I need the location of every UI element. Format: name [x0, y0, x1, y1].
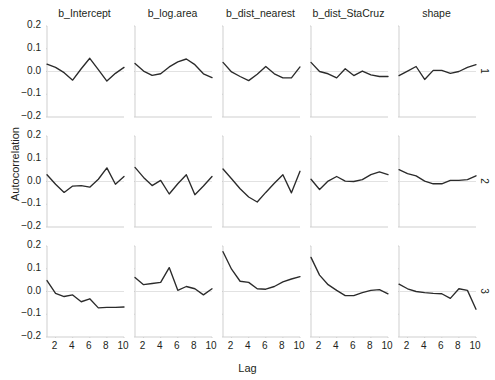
- acf-line: [399, 284, 476, 309]
- acf-line: [47, 168, 124, 193]
- x-tick-label: 8: [363, 340, 377, 351]
- x-tick-label: 10: [292, 340, 306, 351]
- x-tick-label: 6: [82, 340, 96, 351]
- x-tick-label: 10: [380, 340, 394, 351]
- column-title-b-dist-stacruz: b_dist_StaCruz: [310, 7, 387, 19]
- panel-b-dist-nearest-chain-1: [222, 25, 299, 116]
- panel-b-dist-stacruz-chain-3: [310, 245, 387, 336]
- y-tick-label: −0.1: [15, 87, 41, 98]
- y-tick-label: −0.2: [15, 110, 41, 121]
- acf-line: [399, 65, 476, 80]
- acf-line: [223, 252, 300, 290]
- x-tick-label: 6: [258, 340, 272, 351]
- y-tick-label: −0.1: [15, 307, 41, 318]
- panel-shape-chain-3: [398, 245, 475, 336]
- panel-b-dist-nearest-chain-3: [222, 245, 299, 336]
- acf-line: [47, 58, 124, 81]
- x-axis-label: Lag: [0, 362, 495, 374]
- panel-shape-chain-2: [398, 135, 475, 226]
- y-tick-label: 0.0: [15, 285, 41, 296]
- x-tick-label: 2: [400, 340, 414, 351]
- y-tick-label: −0.2: [15, 330, 41, 341]
- row-title-chain-1: 1: [477, 64, 491, 78]
- acf-line: [223, 169, 300, 202]
- panel-b-dist-stacruz-chain-1: [310, 25, 387, 116]
- row-title-chain-3: 3: [477, 284, 491, 298]
- x-tick-label: 10: [204, 340, 218, 351]
- x-tick-label: 10: [468, 340, 482, 351]
- y-tick-label: −0.2: [15, 220, 41, 231]
- y-tick-label: −0.1: [15, 197, 41, 208]
- x-tick-label: 8: [187, 340, 201, 351]
- acf-line: [311, 172, 388, 190]
- panel-b-intercept-chain-3: [46, 245, 123, 336]
- y-tick-label: 0.1: [15, 152, 41, 163]
- x-tick-label: 4: [241, 340, 255, 351]
- panel-b-dist-stacruz-chain-2: [310, 135, 387, 226]
- x-tick-label: 2: [312, 340, 326, 351]
- x-tick-label: 6: [170, 340, 184, 351]
- x-tick-label: 4: [417, 340, 431, 351]
- x-tick-label: 4: [153, 340, 167, 351]
- x-tick-label: 4: [329, 340, 343, 351]
- panel-b-intercept-chain-2: [46, 135, 123, 226]
- row-title-chain-2: 2: [477, 174, 491, 188]
- x-tick-label: 10: [116, 340, 130, 351]
- panel-b-log-area-chain-2: [134, 135, 211, 226]
- x-tick-label: 4: [65, 340, 79, 351]
- x-tick-label: 8: [275, 340, 289, 351]
- column-title-b-intercept: b_Intercept: [46, 7, 123, 19]
- x-tick-label: 8: [451, 340, 465, 351]
- y-tick-label: 0.0: [15, 175, 41, 186]
- panel-b-dist-nearest-chain-2: [222, 135, 299, 226]
- acf-line: [135, 268, 212, 295]
- x-tick-label: 2: [136, 340, 150, 351]
- y-tick-label: 0.1: [15, 42, 41, 53]
- acf-line: [135, 59, 212, 78]
- y-tick-label: 0.2: [15, 129, 41, 140]
- acf-line: [311, 257, 388, 295]
- acf-line: [311, 62, 388, 77]
- panel-b-log-area-chain-3: [134, 245, 211, 336]
- x-tick-label: 6: [434, 340, 448, 351]
- autocorrelation-facet-plot: Autocorrelation Lag b_Interceptb_log.are…: [0, 0, 495, 380]
- acf-line: [47, 281, 124, 308]
- y-tick-label: 0.2: [15, 19, 41, 30]
- y-tick-label: 0.1: [15, 262, 41, 273]
- x-tick-label: 6: [346, 340, 360, 351]
- panel-b-log-area-chain-1: [134, 25, 211, 116]
- panel-shape-chain-1: [398, 25, 475, 116]
- x-tick-label: 2: [224, 340, 238, 351]
- panel-b-intercept-chain-1: [46, 25, 123, 116]
- column-title-b-log-area: b_log.area: [134, 7, 211, 19]
- y-tick-label: 0.2: [15, 239, 41, 250]
- y-tick-label: 0.0: [15, 65, 41, 76]
- x-tick-label: 2: [48, 340, 62, 351]
- column-title-shape: shape: [398, 7, 475, 19]
- column-title-b-dist-nearest: b_dist_nearest: [222, 7, 299, 19]
- x-tick-label: 8: [99, 340, 113, 351]
